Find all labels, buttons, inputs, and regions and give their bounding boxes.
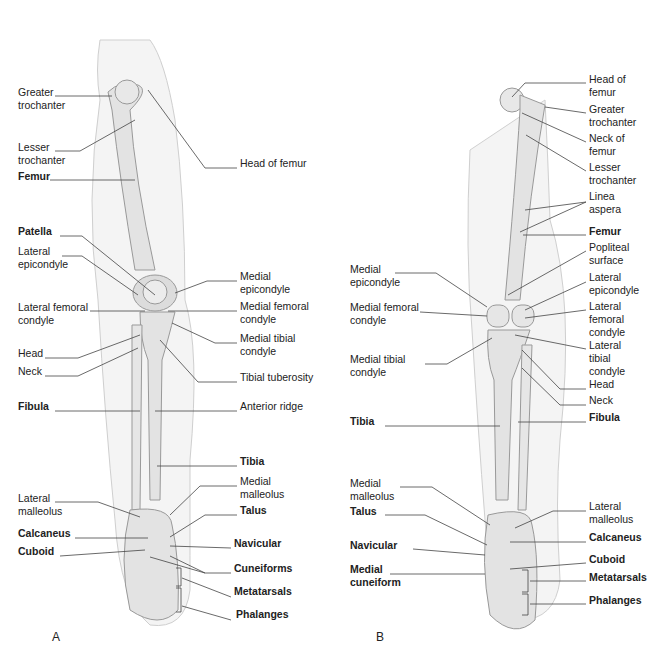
- anatomy-label: Cuboid: [589, 553, 625, 566]
- anatomy-label: Talus: [350, 505, 377, 518]
- anatomy-label: Neck: [589, 394, 613, 407]
- anatomy-label: Navicular: [234, 537, 281, 550]
- anatomy-label: Lateral malleolus: [589, 500, 633, 526]
- anatomy-label: Fibula: [18, 400, 49, 413]
- anatomy-label: Lateral femoral condyle: [18, 301, 88, 327]
- anatomy-label: Greater trochanter: [18, 86, 65, 112]
- anatomy-label: Tibia: [350, 415, 374, 428]
- medial-condyle-b: [487, 305, 509, 327]
- panel-letter-b: B: [376, 630, 384, 644]
- anatomy-label: Lateral femoral condyle: [589, 300, 625, 339]
- anatomy-label: Phalanges: [236, 608, 289, 621]
- anatomy-label: Medial tibial condyle: [240, 332, 295, 358]
- anatomy-label: Head: [589, 378, 614, 391]
- anatomy-label: Tibial tuberosity: [240, 371, 313, 384]
- anatomy-label: Femur: [589, 225, 621, 238]
- patella-a: [143, 280, 167, 304]
- anatomy-label: Head of femur: [589, 73, 626, 99]
- anatomy-label: Navicular: [350, 539, 397, 552]
- anatomy-label: Metatarsals: [589, 571, 647, 584]
- anatomy-label: Talus: [240, 504, 267, 517]
- lateral-condyle-b: [512, 305, 534, 327]
- anatomy-label: Fibula: [589, 411, 620, 424]
- anatomy-label: Head of femur: [240, 157, 307, 170]
- anatomy-label: Calcaneus: [589, 531, 642, 544]
- anatomy-label: Phalanges: [589, 594, 642, 607]
- anatomy-label: Lateral epicondyle: [18, 245, 68, 271]
- anatomy-label: Metatarsals: [234, 585, 292, 598]
- leg-skeleton-illustration: [0, 0, 663, 670]
- anatomy-label: Medial femoral condyle: [240, 300, 309, 326]
- anatomy-label: Medial epicondyle: [240, 270, 290, 296]
- anatomy-label: Greater trochanter: [589, 103, 636, 129]
- femoral-head-a: [115, 80, 139, 104]
- foot-a: [124, 509, 178, 620]
- anatomy-label: Medial tibial condyle: [350, 353, 405, 379]
- anatomy-label: Popliteal surface: [589, 241, 629, 267]
- anatomy-label: Neck of femur: [589, 132, 625, 158]
- anatomy-label: Lateral malleolus: [18, 492, 62, 518]
- anatomy-label: Calcaneus: [18, 527, 71, 540]
- anatomy-label: Cuboid: [18, 545, 54, 558]
- anatomy-label: Medial femoral condyle: [350, 301, 419, 327]
- anatomy-label: Patella: [18, 225, 52, 238]
- anatomy-label: Medial malleolus: [240, 475, 284, 501]
- anatomy-label: Medial epicondyle: [350, 263, 400, 289]
- foot-b: [484, 512, 536, 629]
- anatomy-label: Linea aspera: [589, 190, 621, 216]
- anatomy-label: Neck: [18, 365, 42, 378]
- anatomy-label: Lateral tibial condyle: [589, 339, 625, 378]
- anatomy-label: Femur: [18, 170, 50, 183]
- anatomy-label: Lateral epicondyle: [589, 271, 639, 297]
- panel-letter-a: A: [52, 630, 60, 644]
- anatomy-label: Lesser trochanter: [589, 161, 636, 187]
- anatomy-label: Anterior ridge: [240, 400, 303, 413]
- anatomy-label: Lesser trochanter: [18, 141, 65, 167]
- anatomy-label: Medial malleolus: [350, 477, 394, 503]
- anatomy-label: Medial cuneiform: [350, 563, 401, 589]
- fibula-a: [132, 325, 142, 510]
- anatomy-label: Head: [18, 347, 43, 360]
- anatomy-label: Tibia: [240, 455, 264, 468]
- anatomy-label: Cuneiforms: [234, 562, 292, 575]
